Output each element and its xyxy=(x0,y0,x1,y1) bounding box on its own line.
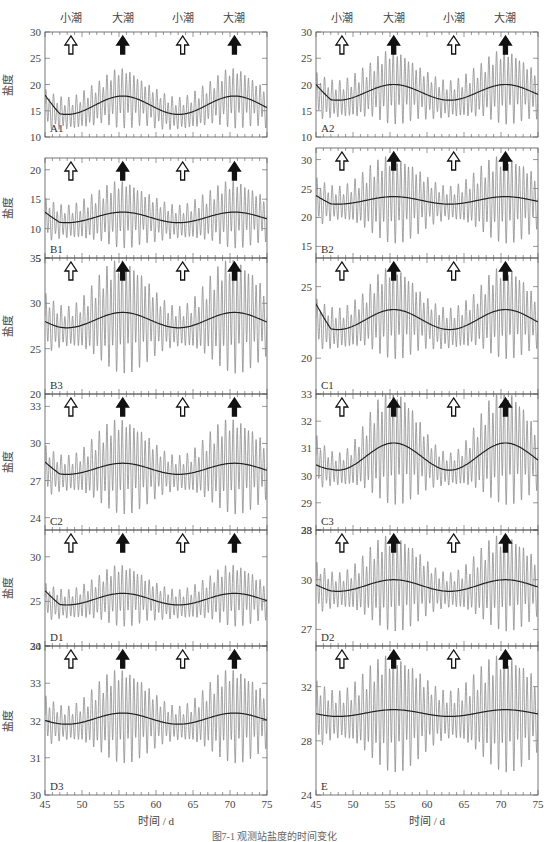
y-tick-label: 29 xyxy=(301,497,313,509)
panel-label: D1 xyxy=(50,631,63,643)
y-axis-label: 盐度 xyxy=(1,577,14,599)
tide-label: 大潮 xyxy=(494,11,516,24)
y-tick-label: 20 xyxy=(30,388,42,400)
panel-c3: 282930313233C3 xyxy=(301,388,538,536)
x-tick-label: 45 xyxy=(40,798,52,810)
y-tick-label: 15 xyxy=(30,193,42,205)
y-tick-label: 25 xyxy=(301,52,313,64)
neap-tide-arrow-icon xyxy=(448,262,460,280)
neap-tide-arrow-icon xyxy=(177,534,189,552)
panel-d1: 202530盐度D1 xyxy=(1,530,267,652)
neap-tide-arrow-icon xyxy=(177,162,189,180)
neap-tide-arrow-icon xyxy=(177,36,189,54)
panel-label: E xyxy=(321,780,328,792)
x-tick-label: 75 xyxy=(262,798,274,810)
y-tick-label: 32 xyxy=(301,681,312,693)
spring-tide-arrow-icon xyxy=(117,398,129,416)
spring-tide-arrow-icon xyxy=(228,36,240,54)
y-tick-label: 25 xyxy=(301,281,313,293)
y-tick-label: 20 xyxy=(301,211,313,223)
neap-tide-arrow-icon xyxy=(448,534,460,552)
salinity-series xyxy=(316,267,538,358)
y-tick-label: 28 xyxy=(301,735,313,747)
y-tick-label: 10 xyxy=(30,131,42,143)
neap-tide-arrow-icon xyxy=(336,36,348,54)
panel-d2: 273033D2 xyxy=(301,524,538,646)
x-tick-label: 55 xyxy=(114,798,126,810)
spring-tide-arrow-icon xyxy=(388,262,400,280)
y-tick-label: 10 xyxy=(301,131,313,143)
tide-label: 大潮 xyxy=(223,11,245,24)
panel-b1: 5101520盐度B1 xyxy=(1,158,267,264)
panel-b3: 20253035盐度B3 xyxy=(1,252,267,400)
tide-label: 小潮 xyxy=(331,11,353,24)
y-tick-label: 25 xyxy=(30,343,42,355)
tide-label: 小潮 xyxy=(60,11,82,24)
neap-tide-arrow-icon xyxy=(448,398,460,416)
figure-caption: 图7-1 观测站盐度的时间变化 xyxy=(0,828,549,842)
panel-b2: 15202530B2 xyxy=(301,148,538,258)
y-tick-label: 15 xyxy=(301,240,313,252)
spring-tide-arrow-icon xyxy=(499,262,511,280)
panel-label: B2 xyxy=(321,243,334,255)
spring-tide-arrow-icon xyxy=(117,534,129,552)
spring-tide-arrow-icon xyxy=(228,398,240,416)
y-tick-label: 30 xyxy=(30,26,42,38)
y-axis-label: 盐度 xyxy=(1,710,14,732)
y-tick-label: 32 xyxy=(30,715,41,727)
y-tick-label: 33 xyxy=(301,524,313,536)
y-tick-label: 20 xyxy=(301,352,313,364)
spring-tide-arrow-icon xyxy=(228,262,240,280)
y-tick-label: 34 xyxy=(30,640,42,652)
y-tick-label: 25 xyxy=(301,183,313,195)
spring-tide-arrow-icon xyxy=(499,152,511,170)
neap-tide-arrow-icon xyxy=(336,152,348,170)
panel-label: C2 xyxy=(50,515,63,527)
spring-tide-arrow-icon xyxy=(499,36,511,54)
spring-tide-arrow-icon xyxy=(117,650,129,668)
panel-e: 242832E45505560657075时间 / d xyxy=(301,646,544,827)
x-axis-label: 时间 / d xyxy=(138,815,175,827)
neap-tide-arrow-icon xyxy=(336,650,348,668)
neap-tide-arrow-icon xyxy=(336,262,348,280)
y-tick-label: 20 xyxy=(30,79,42,91)
x-axis-label: 时间 / d xyxy=(409,815,446,827)
y-tick-label: 24 xyxy=(30,512,42,524)
x-tick-label: 55 xyxy=(385,798,397,810)
spring-tide-arrow-icon xyxy=(228,534,240,552)
y-tick-label: 35 xyxy=(30,252,42,264)
x-tick-label: 60 xyxy=(422,798,434,810)
salinity-series xyxy=(45,69,267,130)
panel-label: D3 xyxy=(50,780,64,792)
salinity-series xyxy=(316,51,538,125)
panel-label: B3 xyxy=(50,379,63,391)
neap-tide-arrow-icon xyxy=(177,650,189,668)
panel-c1: 2025C1 xyxy=(301,258,538,394)
y-axis-label: 盐度 xyxy=(1,74,14,96)
y-tick-label: 31 xyxy=(30,752,41,764)
neap-tide-arrow-icon xyxy=(65,534,77,552)
tide-label: 小潮 xyxy=(443,11,465,24)
neap-tide-arrow-icon xyxy=(65,36,77,54)
neap-tide-arrow-icon xyxy=(448,36,460,54)
spring-tide-arrow-icon xyxy=(388,36,400,54)
y-tick-label: 30 xyxy=(301,574,313,586)
salinity-figure: 1015202530盐度小潮大潮小潮大潮A11015202530小潮大潮小潮大潮… xyxy=(0,0,549,842)
panel-label: B1 xyxy=(50,243,63,255)
y-axis-label: 盐度 xyxy=(1,197,14,219)
neap-tide-arrow-icon xyxy=(336,398,348,416)
spring-tide-arrow-icon xyxy=(499,650,511,668)
neap-tide-arrow-icon xyxy=(65,398,77,416)
spring-tide-arrow-icon xyxy=(228,650,240,668)
x-tick-label: 70 xyxy=(225,798,237,810)
x-tick-label: 60 xyxy=(151,798,163,810)
panel-label: D2 xyxy=(321,631,334,643)
x-tick-label: 75 xyxy=(533,798,545,810)
y-axis-label: 盐度 xyxy=(1,451,14,473)
x-tick-label: 50 xyxy=(348,798,360,810)
panel-label: A1 xyxy=(50,122,63,134)
y-tick-label: 15 xyxy=(301,105,313,117)
x-tick-label: 70 xyxy=(496,798,508,810)
x-tick-label: 45 xyxy=(311,798,323,810)
salinity-series xyxy=(45,670,267,763)
